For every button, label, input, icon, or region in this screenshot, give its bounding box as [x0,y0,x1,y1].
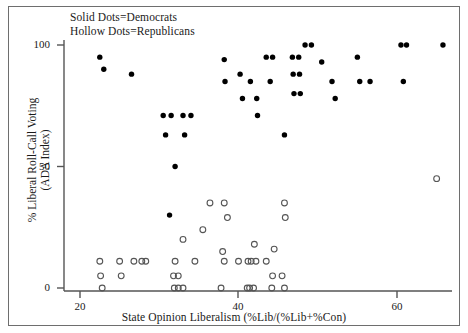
data-point-democrat [255,113,260,118]
legend-republicans-label: Hollow Dots=Republicans [70,25,195,39]
data-point-republican [200,227,206,233]
data-point-democrat [172,164,177,169]
x-tick-label-20: 20 [60,300,100,312]
data-point-democrat [401,79,406,84]
data-point-democrat [182,132,187,137]
y-tick-label-50: 50 [10,160,50,172]
data-point-republican [207,200,213,206]
data-point-democrat [188,113,193,118]
data-point-democrat [309,42,314,47]
data-point-democrat [355,54,360,59]
data-point-republican [118,273,124,279]
data-point-democrat [440,42,445,47]
data-point-democrat [167,212,172,217]
data-point-democrat [296,54,301,59]
x-axis-title: State Opinion Liberalism (%Lib/(%Lib+%Co… [0,311,468,323]
data-point-democrat [270,54,275,59]
data-point-democrat [357,79,362,84]
data-point-republican [251,285,257,291]
data-point-democrat [254,96,259,101]
data-point-democrat [329,79,334,84]
data-point-democrat [240,96,245,101]
scatter-plot-figure: Solid Dots=Democrats Hollow Dots=Republi… [0,0,468,333]
data-point-democrat [101,67,106,72]
data-point-republican [282,215,288,221]
data-point-republican [98,273,104,279]
data-point-democrat [168,113,173,118]
data-point-democrat [282,132,287,137]
data-point-democrat [290,54,295,59]
data-point-democrat [298,91,303,96]
data-point-democrat [161,113,166,118]
data-point-republican [225,215,231,221]
plot-canvas [0,0,468,333]
data-point-democrat [290,71,295,76]
data-point-republican [434,176,440,182]
data-point-democrat [297,71,302,76]
data-point-republican [221,258,227,264]
data-point-republican [218,285,224,291]
y-tick-label-0: 0 [10,281,50,293]
data-point-democrat [163,132,168,137]
data-point-republican [236,258,242,264]
data-point-democrat [367,79,372,84]
data-point-republican [271,246,277,252]
data-point-republican [282,285,288,291]
data-point-republican [180,237,186,243]
data-point-republican [99,285,105,291]
data-point-democrat [264,54,269,59]
data-point-democrat [319,59,324,64]
data-point-democrat [404,42,409,47]
data-point-republican [143,258,149,264]
data-point-republican [251,241,257,247]
data-point-republican [97,258,103,264]
data-point-democrat [332,96,337,101]
data-point-republican [220,249,226,255]
data-point-democrat [129,71,134,76]
data-point-democrat [268,79,273,84]
y-tick-label-100: 100 [10,38,50,50]
data-point-republican [282,200,288,206]
x-tick-label-60: 60 [377,300,417,312]
data-point-republican [117,258,123,264]
data-point-democrat [248,79,253,84]
data-point-republican [279,273,285,279]
data-point-democrat [237,71,242,76]
data-point-democrat [222,79,227,84]
data-point-republican [131,258,137,264]
data-point-democrat [302,42,307,47]
data-point-republican [172,258,178,264]
x-tick-label-40: 40 [218,300,258,312]
data-point-republican [192,258,198,264]
data-points-group [97,42,446,291]
data-point-republican [221,200,227,206]
data-point-democrat [180,113,185,118]
data-point-democrat [398,42,403,47]
data-point-republican [263,258,269,264]
axis-lines [64,40,452,291]
data-point-democrat [97,54,102,59]
legend: Solid Dots=Democrats Hollow Dots=Republi… [70,11,195,38]
legend-democrats-label: Solid Dots=Democrats [70,11,195,25]
data-point-republican [269,285,275,291]
data-point-republican [270,273,276,279]
data-point-democrat [222,57,227,62]
data-point-democrat [291,91,296,96]
